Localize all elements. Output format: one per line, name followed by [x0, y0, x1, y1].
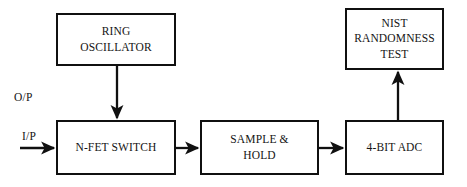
- block-four-bit-adc: 4-BIT ADC: [345, 120, 444, 175]
- block-four-bit-adc-label: 4-BIT ADC: [363, 140, 427, 155]
- block-ring-oscillator: RING OSCILLATOR: [56, 13, 176, 66]
- block-sample-and-hold-label: SAMPLE & HOLD: [226, 132, 292, 162]
- block-n-fet-switch-label: N-FET SWITCH: [71, 140, 160, 155]
- block-nist-randomness-test: NIST RANDOMNESS TEST: [345, 8, 444, 70]
- block-diagram: RING OSCILLATOR NIST RANDOMNESS TEST N-F…: [0, 0, 467, 187]
- block-ring-oscillator-label: RING OSCILLATOR: [76, 24, 156, 54]
- block-nist-randomness-test-label: NIST RANDOMNESS TEST: [350, 16, 439, 62]
- input-label: I/P: [22, 130, 36, 142]
- output-label: O/P: [14, 91, 33, 103]
- block-sample-and-hold: SAMPLE & HOLD: [200, 120, 319, 175]
- block-n-fet-switch: N-FET SWITCH: [56, 120, 176, 175]
